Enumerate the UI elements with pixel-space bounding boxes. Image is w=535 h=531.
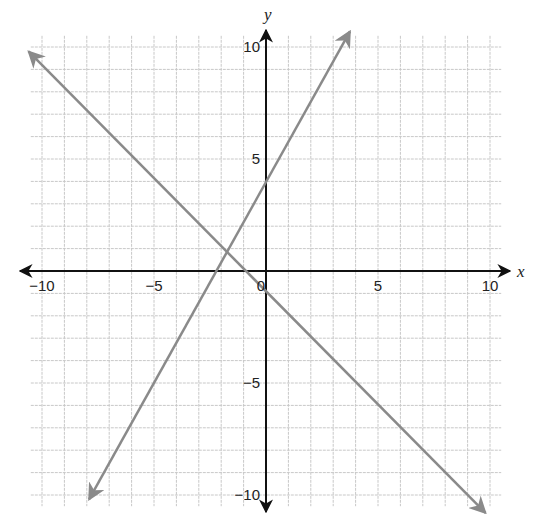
y-tick-label: −5 xyxy=(243,374,260,391)
x-tick-label: 0 xyxy=(257,277,265,294)
axes xyxy=(20,30,510,512)
y-tick-label: 5 xyxy=(252,150,260,167)
y-tick-label: 10 xyxy=(243,38,260,55)
plotted-lines xyxy=(29,31,486,513)
x-axis-label: x xyxy=(516,262,525,281)
coordinate-plane: −10−50510−10−5510 x y xyxy=(0,0,535,531)
y-tick-label: −10 xyxy=(235,486,260,503)
x-tick-label: −5 xyxy=(145,277,162,294)
x-tick-label: 10 xyxy=(482,277,499,294)
x-tick-label: −10 xyxy=(29,277,54,294)
x-tick-label: 5 xyxy=(374,277,382,294)
y-axis-label: y xyxy=(262,5,272,24)
